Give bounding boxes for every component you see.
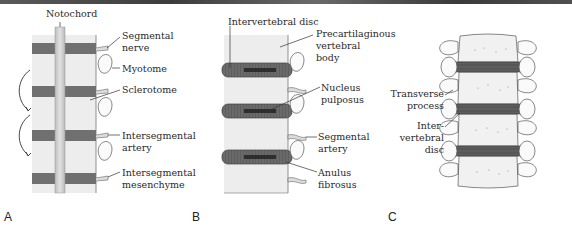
label-transverse-process-line1: Transverse xyxy=(390,88,444,99)
panel-letter-c: C xyxy=(388,210,397,224)
label-segmental-nerve-line2: nerve xyxy=(122,42,149,53)
panel-c-drawing xyxy=(440,34,537,188)
label-c-intervertebral-disc-line2: vertebral xyxy=(400,132,444,143)
label-segmental-artery-line2: artery xyxy=(318,143,348,154)
label-anulus-fibrosus-line1: Anulus xyxy=(318,167,351,178)
label-anulus-fibrosus-line2: fibrosus xyxy=(318,179,357,190)
label-c-intervertebral-disc-line1: Inter- xyxy=(417,120,444,131)
label-segmental-nerve-line1: Segmental xyxy=(122,30,173,41)
panel-b-drawing xyxy=(222,26,320,193)
label-intersegmental-artery-line2: artery xyxy=(122,142,152,153)
label-intersegmental-artery-line1: Intersegmental xyxy=(122,130,196,141)
label-nucleus-pulposus-line2: pulposus xyxy=(321,94,364,105)
vertebral-development-diagram xyxy=(0,0,572,230)
label-sclerotome: Sclerotome xyxy=(122,84,177,95)
label-precartilaginous-line3: body xyxy=(316,52,339,63)
panel-letter-b: B xyxy=(192,210,200,224)
label-myotome: Myotome xyxy=(122,63,167,74)
panel-a-drawing xyxy=(19,22,120,193)
label-transverse-process-line2: process xyxy=(407,100,444,111)
label-intersegmental-mesenchyme-line2: mesenchyme xyxy=(122,179,185,190)
panel-letter-a: A xyxy=(4,210,12,224)
label-precartilaginous-line1: Precartilaginous xyxy=(316,28,396,39)
label-nucleus-pulposus-line1: Nucleus xyxy=(321,82,360,93)
label-intersegmental-mesenchyme-line1: Intersegmental xyxy=(122,167,196,178)
label-precartilaginous-line2: vertebral xyxy=(316,40,360,51)
label-segmental-artery-line1: Segmental xyxy=(318,131,369,142)
label-c-intervertebral-disc-line3: disc xyxy=(425,144,444,155)
label-notochord: Notochord xyxy=(46,8,97,19)
label-intervertebral-disc: Intervertebral disc xyxy=(228,16,318,27)
